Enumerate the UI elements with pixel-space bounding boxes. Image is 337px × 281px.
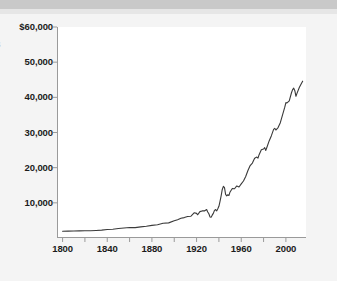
y-axis-tick-label: 30,000 — [1, 127, 53, 138]
x-axis-labels: 180018401880192019602000 — [0, 243, 337, 259]
y-axis-tick-label: 10,000 — [1, 197, 53, 208]
x-axis-tick-label: 1920 — [177, 243, 217, 254]
y-axis-tick-label: 40,000 — [1, 91, 53, 102]
y-axis-tick-label: $60,000 — [1, 21, 53, 32]
x-tick-marks — [63, 238, 286, 242]
y-tick-marks — [53, 27, 57, 203]
plot-wrapper: 10,00020,00030,00040,00050,000$60,000 18… — [0, 0, 337, 281]
data-line-series — [63, 81, 303, 231]
y-axis-tick-label: 50,000 — [1, 56, 53, 67]
chart-canvas — [57, 27, 306, 238]
x-axis-tick-label: 1960 — [221, 243, 261, 254]
y-axis-tick-label: 20,000 — [1, 162, 53, 173]
chart-figure: $ 10,00020,00030,00040,00050,000$60,000 … — [0, 0, 337, 281]
y-axis-labels: 10,00020,00030,00040,00050,000$60,000 — [0, 0, 53, 281]
x-axis-tick-label: 1840 — [87, 243, 127, 254]
x-axis-tick-label: 1800 — [43, 243, 83, 254]
x-axis-tick-label: 2000 — [266, 243, 306, 254]
x-axis-tick-label: 1880 — [132, 243, 172, 254]
